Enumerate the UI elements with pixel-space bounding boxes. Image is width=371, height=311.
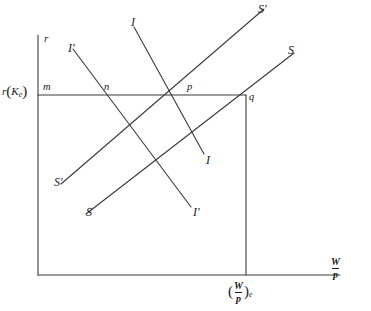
curve-label-I-prime-bottom: I' <box>193 206 200 218</box>
diagram-canvas <box>0 0 371 311</box>
curve-label-S-prime-bottom: S' <box>54 176 63 188</box>
curve-S-prime <box>61 9 264 184</box>
curve-label-I-bottom: I <box>206 154 210 166</box>
economics-diagram-figure: r W p r(Ke) ( W p )e I' I S' S S' S I I'… <box>0 0 371 311</box>
x-axis-value-fraction: W p <box>233 281 244 304</box>
y-axis-value-close-paren: ) <box>22 84 27 99</box>
x-axis-label-numerator: W <box>330 257 341 268</box>
point-label-p: p <box>187 82 192 93</box>
y-axis-value-subscript: e <box>19 91 23 99</box>
point-label-n: n <box>104 82 109 93</box>
x-axis-value-denominator: p <box>235 292 242 304</box>
x-axis-value-label: ( W p )e <box>228 280 252 303</box>
curve-label-I-prime-top: I' <box>68 42 75 54</box>
y-axis-symbol: r <box>44 33 48 44</box>
x-axis-value-numerator: W <box>233 281 244 292</box>
y-axis-value-label: r(Ke) <box>2 84 27 99</box>
y-axis-value-base: K <box>11 86 18 97</box>
point-label-m: m <box>43 82 51 93</box>
curve-I <box>134 27 204 154</box>
curve-label-I-top: I <box>131 16 135 28</box>
point-label-q: q <box>249 92 254 103</box>
curve-label-S-bottom: S <box>86 206 92 218</box>
x-axis-label-denominator: p <box>332 268 339 280</box>
x-axis-label-fraction: W p <box>330 257 341 280</box>
x-axis-value-subscript: e <box>249 291 253 299</box>
x-axis-label: W p <box>330 256 341 279</box>
curve-label-S-top: S <box>288 44 294 56</box>
curve-I-prime <box>73 49 191 207</box>
curve-S <box>86 53 294 214</box>
curve-label-S-prime-top: S' <box>258 3 267 15</box>
